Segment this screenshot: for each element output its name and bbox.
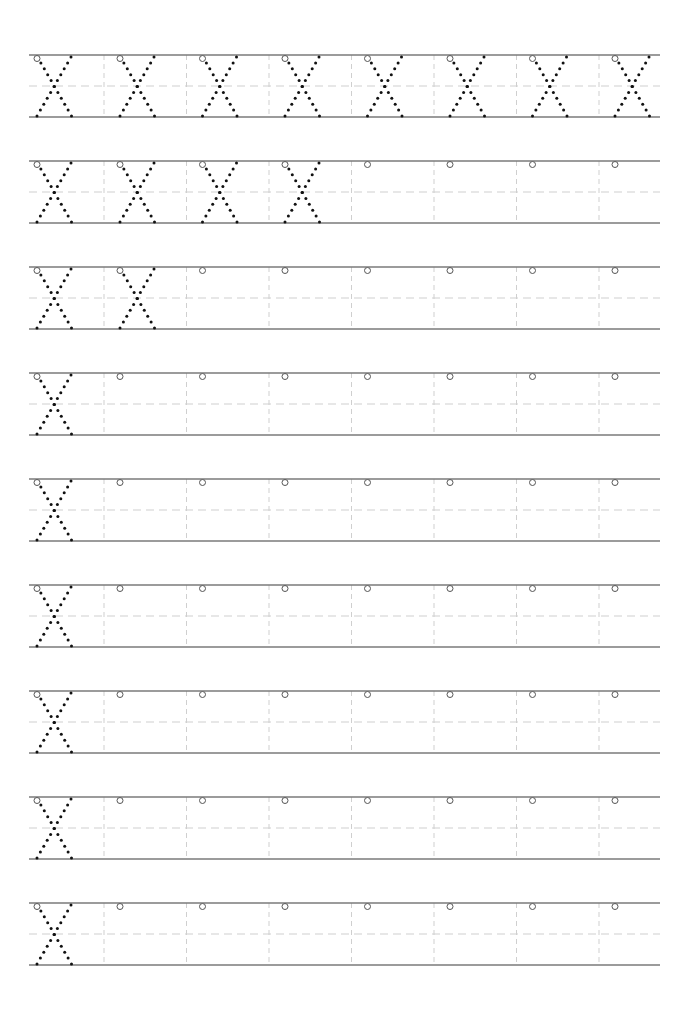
traceable-letter-x[interactable] — [36, 374, 74, 436]
writing-row — [29, 161, 687, 224]
empty-practice-cell[interactable] — [359, 479, 440, 541]
start-point-circle-icon — [117, 56, 123, 62]
empty-practice-cell[interactable] — [111, 691, 192, 753]
writing-row — [29, 903, 687, 966]
empty-practice-cell[interactable] — [606, 797, 687, 859]
empty-practice-cell[interactable] — [276, 479, 357, 541]
start-point-circle-icon — [34, 904, 40, 910]
start-point-circle-icon — [34, 798, 40, 804]
empty-practice-cell[interactable] — [359, 797, 440, 859]
traceable-letter-x[interactable] — [36, 692, 74, 754]
empty-practice-cell[interactable] — [111, 585, 192, 647]
start-point-circle-icon — [34, 480, 40, 486]
traceable-letter-x[interactable] — [36, 162, 74, 224]
empty-practice-cell[interactable] — [524, 479, 605, 541]
start-point-circle-icon — [34, 586, 40, 592]
writing-row — [29, 585, 687, 648]
start-point-circle-icon — [34, 692, 40, 698]
empty-practice-cell[interactable] — [359, 267, 440, 329]
empty-practice-cell[interactable] — [524, 691, 605, 753]
empty-practice-cell[interactable] — [606, 161, 687, 223]
start-point-circle-icon — [282, 162, 288, 168]
empty-practice-cell[interactable] — [441, 585, 522, 647]
tracing-worksheet — [0, 0, 700, 1011]
empty-practice-cell[interactable] — [276, 373, 357, 435]
start-point-circle-icon — [117, 268, 123, 274]
empty-practice-cell[interactable] — [359, 903, 440, 965]
traceable-letter-x[interactable] — [449, 56, 487, 118]
empty-practice-cell[interactable] — [276, 585, 357, 647]
start-point-circle-icon — [200, 56, 206, 62]
empty-practice-cell[interactable] — [441, 161, 522, 223]
empty-practice-cell[interactable] — [359, 161, 440, 223]
start-point-circle-icon — [34, 268, 40, 274]
empty-practice-cell[interactable] — [194, 585, 275, 647]
empty-practice-cell[interactable] — [359, 691, 440, 753]
empty-practice-cell[interactable] — [606, 373, 687, 435]
start-point-circle-icon — [200, 162, 206, 168]
empty-practice-cell[interactable] — [524, 797, 605, 859]
empty-practice-cell[interactable] — [359, 373, 440, 435]
writing-row — [29, 479, 687, 542]
empty-practice-cell[interactable] — [276, 903, 357, 965]
traceable-letter-x[interactable] — [36, 56, 74, 118]
empty-practice-cell[interactable] — [194, 903, 275, 965]
empty-practice-cell[interactable] — [524, 267, 605, 329]
empty-practice-cell[interactable] — [441, 267, 522, 329]
empty-practice-cell[interactable] — [606, 267, 687, 329]
empty-practice-cell[interactable] — [606, 903, 687, 965]
traceable-letter-x[interactable] — [201, 162, 239, 224]
empty-practice-cell[interactable] — [276, 267, 357, 329]
start-point-circle-icon — [282, 56, 288, 62]
start-point-circle-icon — [365, 56, 371, 62]
writing-row — [29, 797, 687, 860]
empty-practice-cell[interactable] — [194, 797, 275, 859]
empty-practice-cell[interactable] — [441, 373, 522, 435]
empty-practice-cell[interactable] — [194, 691, 275, 753]
empty-practice-cell[interactable] — [194, 267, 275, 329]
empty-practice-cell[interactable] — [441, 903, 522, 965]
empty-practice-cell[interactable] — [359, 585, 440, 647]
writing-row — [29, 691, 687, 754]
empty-practice-cell[interactable] — [111, 903, 192, 965]
empty-practice-cell[interactable] — [441, 691, 522, 753]
empty-practice-cell[interactable] — [524, 903, 605, 965]
traceable-letter-x[interactable] — [36, 586, 74, 648]
start-point-circle-icon — [34, 374, 40, 380]
start-point-circle-icon — [530, 56, 536, 62]
empty-practice-cell[interactable] — [606, 479, 687, 541]
empty-practice-cell[interactable] — [441, 479, 522, 541]
traceable-letter-x[interactable] — [36, 268, 74, 330]
traceable-letter-x[interactable] — [36, 798, 74, 860]
traceable-letter-x[interactable] — [36, 904, 74, 966]
empty-practice-cell[interactable] — [194, 373, 275, 435]
writing-row — [29, 55, 660, 118]
empty-practice-cell[interactable] — [111, 373, 192, 435]
empty-practice-cell[interactable] — [606, 585, 687, 647]
writing-row — [29, 373, 687, 436]
empty-practice-cell[interactable] — [606, 691, 687, 753]
start-point-circle-icon — [447, 56, 453, 62]
start-point-circle-icon — [34, 56, 40, 62]
empty-practice-cell[interactable] — [441, 797, 522, 859]
empty-practice-cell[interactable] — [276, 691, 357, 753]
start-point-circle-icon — [34, 162, 40, 168]
empty-practice-cell[interactable] — [524, 585, 605, 647]
empty-practice-cell[interactable] — [111, 479, 192, 541]
empty-practice-cell[interactable] — [111, 797, 192, 859]
empty-practice-cell[interactable] — [276, 797, 357, 859]
empty-practice-cell[interactable] — [524, 373, 605, 435]
writing-row — [29, 267, 687, 330]
empty-practice-cell[interactable] — [194, 479, 275, 541]
empty-practice-cell[interactable] — [524, 161, 605, 223]
traceable-letter-x[interactable] — [201, 56, 239, 118]
start-point-circle-icon — [117, 162, 123, 168]
start-point-circle-icon — [612, 56, 618, 62]
traceable-letter-x[interactable] — [36, 480, 74, 542]
